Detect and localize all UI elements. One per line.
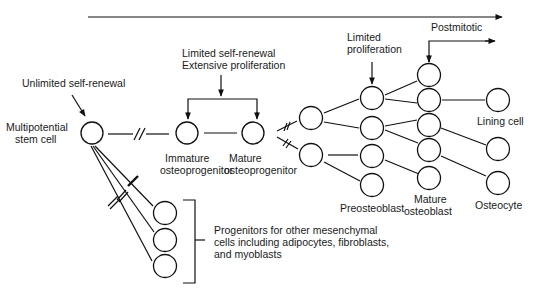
link-c1a-c2a (324, 99, 359, 113)
label-mature-prog-1: Mature (229, 152, 262, 164)
label-postmitotic: Postmitotic (431, 21, 482, 33)
osteoblast-lineage-diagram: Unlimited self-renewal Multipotential st… (0, 0, 537, 294)
break-mark-1 (134, 128, 140, 140)
other-progenitor-cell-2 (154, 229, 177, 252)
link-stem-prog-2 (93, 146, 154, 232)
link-c2a-c3b (385, 99, 417, 103)
link-c2c-c3e (385, 160, 419, 174)
label-immature-1: Immature (165, 152, 210, 164)
break-mark-2 (139, 128, 145, 140)
label-osteocyte: Osteocyte (475, 199, 522, 211)
mature-osteoblast-cell-3 (418, 114, 441, 137)
preosteoblast-cell-2 (361, 117, 384, 140)
break-prog-3a (108, 196, 118, 206)
label-limited-1: Limited (347, 31, 381, 43)
immature-osteoprogenitor-cell (176, 122, 198, 144)
mature-osteoblast-cell-1 (418, 64, 441, 87)
link-stem-prog-3 (91, 146, 152, 261)
link-to-osteocyte-1 (441, 128, 486, 145)
label-limited-2: proliferation (347, 43, 402, 55)
arrow-unlimited (72, 95, 85, 116)
lining-cell (487, 89, 510, 112)
column1-cell-1 (300, 107, 323, 130)
label-mature-ob-1: Mature (414, 193, 447, 205)
label-progenitors-3: and myoblasts (214, 248, 282, 260)
label-limited-self-renewal: Limited self-renewal (182, 47, 275, 59)
preosteoblast-cell-4 (361, 174, 384, 197)
link-c2b-c3c (385, 120, 417, 126)
break-prog-3b (110, 199, 120, 209)
osteocyte-cell-1 (487, 138, 510, 161)
link-c1a-c2b (324, 122, 359, 128)
mature-osteoblast-cell-5 (418, 167, 441, 190)
stem-cell (81, 122, 103, 144)
other-progenitor-cell-3 (154, 255, 177, 278)
link-c1b-c2d (324, 162, 360, 181)
bracket-progenitors-top (188, 99, 257, 118)
label-progenitors-2: cells including adipocytes, fibroblasts, (214, 236, 389, 248)
label-lining-cell: Lining cell (477, 115, 524, 127)
preosteoblast-cell-1 (361, 87, 384, 110)
mature-osteoprogenitor-cell (242, 122, 264, 144)
label-stem-cell-2: stem cell (15, 133, 56, 145)
label-extensive-proliferation: Extensive proliferation (182, 59, 285, 71)
label-immature-2: osteoprogenitor (160, 164, 233, 176)
other-progenitor-cell-1 (154, 202, 177, 225)
label-stem-cell-1: Multipotential (6, 121, 68, 133)
link-to-osteocyte-2 (441, 156, 486, 176)
label-mature-prog-2: osteoprogenitor (224, 164, 297, 176)
link-c2b-c3d (385, 130, 418, 143)
mature-osteoblast-cell-4 (418, 139, 441, 162)
link-c2a-c3a (385, 81, 417, 95)
postmitotic-bracket (429, 41, 490, 62)
label-preosteoblast: Preosteoblast (340, 202, 404, 214)
preosteoblast-cell-3 (361, 145, 384, 168)
label-mature-ob-2: osteoblast (404, 205, 452, 217)
column1-cell-2 (300, 144, 323, 167)
mature-osteoblast-cell-2 (418, 89, 441, 112)
label-progenitors-1: Progenitors for other mesenchymal (214, 224, 377, 236)
progenitors-bracket (183, 200, 195, 283)
osteocyte-cell-2 (487, 172, 510, 195)
label-unlimited-self-renewal: Unlimited self-renewal (22, 77, 125, 89)
